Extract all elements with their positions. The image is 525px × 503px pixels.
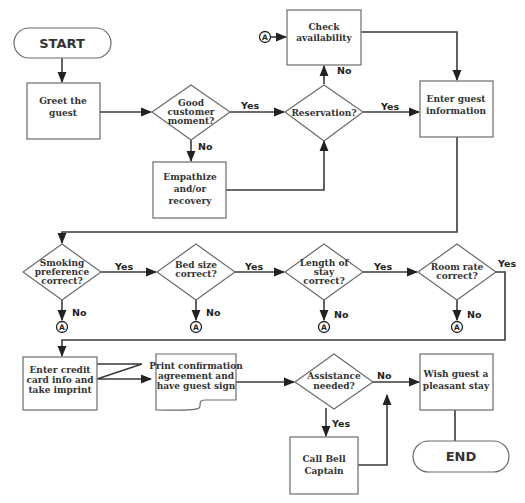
check-line-1: Check [308,22,340,32]
credit-line-1: Enter credit [30,365,92,375]
connector-a-bed: A [191,322,202,333]
greet-line-2: guest [49,108,78,118]
connector-a-smoking: A [57,322,68,333]
wish-line-1: Wish guest a [423,369,489,379]
credit-line-3: take imprint [28,385,92,395]
label-assistance-no: No [377,370,392,381]
bed-line-2: correct? [175,269,217,279]
enter-guest-line-2: information [426,106,487,116]
decision-assistance: Assistance needed? [295,354,373,409]
print-line-2: agreement and [158,371,235,381]
good-moment-line-3: moment? [168,116,215,126]
label-bed-no: No [206,307,221,318]
connector-a-length: A [319,322,330,333]
check-line-2: availability [296,33,352,43]
process-call-bell-captain: Call Bell Captain [290,437,358,494]
flowchart-canvas: START Greet the guest Good customer mome… [0,0,525,503]
credit-line-2: card info and [26,375,94,385]
label-smoking-yes: Yes [114,261,133,272]
document-print-confirmation: Print confirmation agreement and have gu… [149,354,243,410]
decision-smoking: Smoking preference correct? [23,244,101,300]
end-terminal: END [413,441,509,472]
connector-a-label: A [193,323,199,332]
length-line-3: correct? [303,276,345,286]
greet-line-1: Greet the [39,96,87,106]
process-greet-guest: Greet the guest [27,83,100,139]
print-line-3: have guest sign [157,381,236,391]
enter-guest-line-1: Enter guest [427,94,487,104]
wish-line-2: pleasant stay [423,381,490,391]
connector-a-top: A [260,32,271,43]
decision-reservation: Reservation? [285,85,363,141]
empathize-line-2: and/or [174,184,207,194]
start-label: START [39,36,85,51]
arrow-empathize-to-reservation [226,141,324,190]
label-reservation-yes: Yes [380,101,399,112]
connector-a-label: A [262,33,268,42]
decision-bed-size: Bed size correct? [157,244,235,300]
process-enter-guest-info: Enter guest information [420,81,493,137]
label-smoking-no: No [72,307,87,318]
label-bed-yes: Yes [244,261,263,272]
assistance-line-1: Assistance [306,371,361,381]
label-good-moment-yes: Yes [240,100,259,111]
connector-a-label: A [59,323,65,332]
assistance-line-2: needed? [313,381,355,391]
end-label: END [446,449,477,464]
smoking-line-3: correct? [41,276,83,286]
connector-a-label: A [321,323,327,332]
empathize-line-1: Empathize [163,172,217,182]
decision-length-of-stay: Length of stay correct? [285,244,363,300]
label-reservation-no: No [337,65,352,76]
arrow-check-to-enter-guest [361,32,457,80]
connector-a-label: A [454,323,460,332]
decision-good-moment: Good customer moment? [152,85,230,140]
print-line-1: Print confirmation [149,361,243,371]
process-empathize: Empathize and/or recovery [153,162,226,218]
process-wish-guest: Wish guest a pleasant stay [420,354,493,410]
bell-line-1: Call Bell [302,454,346,464]
empathize-line-3: recovery [169,196,213,206]
process-check-availability: Check availability [287,10,361,65]
label-room-rate-yes: Yes [497,258,516,269]
label-good-moment-no: No [198,141,213,152]
room-rate-line-2: correct? [436,271,478,281]
process-enter-credit-card: Enter credit card info and take imprint [23,357,97,410]
label-assistance-yes: Yes [331,418,350,429]
label-length-no: No [334,309,349,320]
decision-room-rate: Room rate correct? [418,244,496,300]
reservation-label: Reservation? [291,108,356,118]
label-room-rate-no: No [467,309,482,320]
arrow-credit-to-print [97,364,151,379]
arrow-bell-to-wish [358,395,387,465]
bell-line-2: Captain [304,466,344,476]
label-length-yes: Yes [373,261,392,272]
connector-a-room-rate: A [452,322,463,333]
start-terminal: START [14,28,111,58]
